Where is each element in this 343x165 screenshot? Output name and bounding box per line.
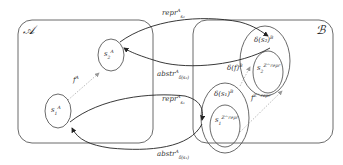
edge-abstr-ds1 <box>72 124 202 149</box>
label-ds1: δ(s₁)B <box>214 90 233 98</box>
domain-a-label: 𝒜 <box>23 24 34 36</box>
label-fZ: fZ^repr <box>251 94 270 102</box>
domain-b-label: ℬ <box>316 24 325 36</box>
label-fA: fA <box>73 76 79 84</box>
label-ds2: δ(s₂)B <box>254 36 273 44</box>
label-s2a: s2A <box>104 50 114 60</box>
label-repr-s2: reprAs₂ <box>162 9 185 19</box>
label-dfB: δ(f)B <box>227 64 243 72</box>
label-abstr-ds1: abstrAδ(s₁) <box>157 150 189 160</box>
label-s2z: s2Z^repr <box>257 64 280 74</box>
edge-abstr-ds2 <box>124 48 270 66</box>
domain-a-box <box>18 20 153 143</box>
label-s1z: s1Z^repr <box>215 116 238 126</box>
label-abstr-ds2: abstrAδ(s₂) <box>157 70 189 80</box>
label-s1a: s1A <box>51 106 61 116</box>
diagram-canvas <box>0 0 343 165</box>
label-repr-s1: reprAs₁ <box>162 95 185 105</box>
